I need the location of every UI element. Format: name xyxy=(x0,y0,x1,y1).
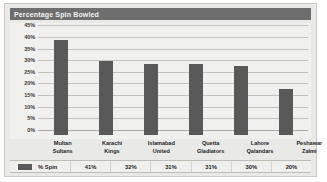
plot-area: 45% 40% 35% 30% 25% 20% 15% 10% 5% 0% xyxy=(10,23,311,139)
x-axis-label-line: Quetta xyxy=(186,140,235,148)
y-axis-tick-5: 5% xyxy=(27,115,35,121)
bar-slot-lahore-qalandars xyxy=(218,23,263,139)
value-peshawar-zalmi: 20% xyxy=(272,161,311,172)
y-axis-tick-40: 40% xyxy=(24,34,35,40)
x-axis-labels: Multan Sultans Karachi Kings Islamabad U… xyxy=(38,140,327,160)
legend-data-table: % Spin 41% 32% 31% 31% 30% 20% xyxy=(10,160,311,173)
y-axis-tick-35: 35% xyxy=(24,46,35,52)
x-axis-label-line: Kings xyxy=(87,148,136,156)
x-axis-label-peshawar-zalmi: Peshawar Zalmi xyxy=(285,140,327,160)
bar-slot-multan-sultans xyxy=(38,23,83,139)
legend-value-row: 41% 32% 31% 31% 30% 20% xyxy=(71,161,311,172)
x-axis-label-line: Qalandars xyxy=(235,148,284,156)
x-axis-label-multan-sultans: Multan Sultans xyxy=(38,140,87,160)
x-axis-label-islamabad-united: Islamabad United xyxy=(137,140,186,160)
legend-color-swatch-icon xyxy=(18,164,32,170)
bar-multan-sultans[interactable] xyxy=(54,40,68,135)
y-axis-tick-0: 0% xyxy=(27,127,35,133)
x-axis-label-line: Islamabad xyxy=(137,140,186,148)
value-quetta-gladiators: 31% xyxy=(192,161,232,172)
y-axis: 45% 40% 35% 30% 25% 20% 15% 10% 5% 0% xyxy=(10,23,38,139)
bar-slot-karachi-kings xyxy=(83,23,128,139)
x-axis-label-line: Karachi xyxy=(87,140,136,148)
y-axis-tick-20: 20% xyxy=(24,80,35,86)
x-axis-label-quetta-gladiators: Quetta Gladiators xyxy=(186,140,235,160)
x-axis-label-lahore-qalandars: Lahore Qalandars xyxy=(235,140,284,160)
bar-karachi-kings[interactable] xyxy=(99,61,113,135)
legend-series-label: % Spin xyxy=(38,164,57,170)
y-axis-tick-15: 15% xyxy=(24,92,35,98)
bar-quetta-gladiators[interactable] xyxy=(189,64,203,136)
bar-slot-peshawar-zalmi xyxy=(263,23,308,139)
value-islamabad-united: 31% xyxy=(151,161,191,172)
y-axis-tick-10: 10% xyxy=(24,104,35,110)
bar-peshawar-zalmi[interactable] xyxy=(279,89,293,135)
x-axis-label-line: Zalmi xyxy=(285,148,327,156)
bar-lahore-qalandars[interactable] xyxy=(234,66,248,136)
value-karachi-kings: 32% xyxy=(111,161,151,172)
legend-key: % Spin xyxy=(10,161,71,172)
chart-title-bar: Percentage Spin Bowled xyxy=(10,8,311,20)
x-axis-label-line: Gladiators xyxy=(186,148,235,156)
y-axis-tick-45: 45% xyxy=(24,22,35,28)
x-axis-label-line: Multan xyxy=(38,140,87,148)
x-axis-label-line: Peshawar xyxy=(285,140,327,148)
bars-layer xyxy=(38,23,308,139)
x-axis-label-line: Lahore xyxy=(235,140,284,148)
x-axis-label-karachi-kings: Karachi Kings xyxy=(87,140,136,160)
bar-slot-islamabad-united xyxy=(128,23,173,139)
y-axis-tick-30: 30% xyxy=(24,57,35,63)
chart-container: Percentage Spin Bowled 45% 40% 35% 30% 2… xyxy=(4,3,317,177)
x-axis-label-line: United xyxy=(137,148,186,156)
value-lahore-qalandars: 30% xyxy=(232,161,272,172)
bar-islamabad-united[interactable] xyxy=(144,64,158,136)
x-axis-label-line: Sultans xyxy=(38,148,87,156)
value-multan-sultans: 41% xyxy=(71,161,111,172)
chart-title: Percentage Spin Bowled xyxy=(10,11,99,18)
y-axis-tick-25: 25% xyxy=(24,69,35,75)
bar-slot-quetta-gladiators xyxy=(173,23,218,139)
